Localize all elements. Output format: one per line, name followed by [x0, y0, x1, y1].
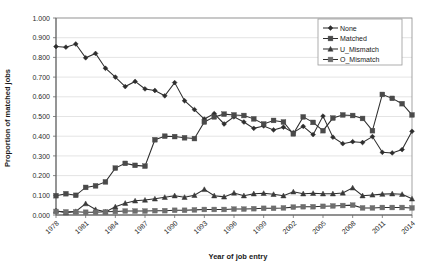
data-point-marker	[380, 92, 385, 97]
data-point-marker	[330, 204, 335, 209]
y-tick-label: 0.700	[32, 74, 50, 81]
data-point-marker	[232, 207, 237, 212]
data-point-marker	[113, 209, 118, 214]
x-tick-label: 2011	[371, 219, 387, 234]
data-point-marker	[410, 129, 415, 134]
data-point-marker	[360, 116, 365, 121]
y-tick-label: 0.100	[32, 192, 50, 199]
legend-item-label: None	[340, 25, 357, 32]
data-point-marker	[301, 114, 306, 119]
data-point-marker	[182, 135, 187, 140]
data-point-marker	[251, 116, 256, 121]
series-o-mismatch	[54, 203, 415, 215]
data-point-marker	[350, 113, 355, 118]
data-point-marker	[291, 189, 296, 194]
data-point-marker	[73, 193, 78, 198]
data-point-marker	[390, 151, 395, 156]
data-point-marker	[291, 205, 296, 210]
data-point-marker	[321, 114, 326, 119]
legend-item-label: U_Mismatch	[340, 46, 379, 54]
data-point-marker	[222, 112, 227, 117]
chart-container: 0.0000.1000.2000.3000.4000.5000.6000.700…	[0, 0, 427, 267]
data-point-marker	[212, 114, 217, 119]
x-tick-label: 2008	[341, 219, 357, 235]
data-point-marker	[301, 204, 306, 209]
data-point-marker	[83, 210, 88, 215]
data-point-marker	[192, 136, 197, 141]
data-point-marker	[232, 113, 237, 118]
data-point-marker	[83, 201, 88, 206]
data-point-marker	[340, 113, 345, 118]
data-point-marker	[54, 44, 59, 49]
data-point-marker	[370, 134, 375, 139]
data-point-marker	[350, 139, 355, 144]
data-point-marker	[103, 209, 108, 214]
data-point-marker	[222, 207, 227, 212]
data-point-marker	[143, 209, 148, 214]
data-point-marker	[380, 205, 385, 210]
data-point-marker	[162, 134, 167, 139]
data-point-marker	[340, 203, 345, 208]
data-point-marker	[152, 137, 157, 142]
y-tick-label: 0.400	[32, 133, 50, 140]
x-tick-label: 1999	[252, 219, 268, 235]
x-tick-label: 2005	[311, 219, 327, 235]
data-point-marker	[380, 150, 385, 155]
data-point-marker	[390, 96, 395, 101]
data-point-marker	[123, 209, 128, 214]
y-tick-label: 0.800	[32, 54, 50, 61]
y-tick-label: 0.300	[32, 153, 50, 160]
data-point-marker	[400, 101, 405, 106]
data-point-marker	[360, 140, 365, 145]
data-point-marker	[281, 120, 286, 125]
data-point-marker	[143, 164, 148, 169]
data-point-marker	[321, 128, 326, 133]
series-matched	[54, 92, 415, 198]
data-point-marker	[311, 120, 316, 125]
data-point-marker	[400, 147, 405, 152]
x-tick-label: 1996	[222, 219, 238, 235]
data-point-marker	[410, 113, 415, 118]
data-point-marker	[409, 196, 414, 201]
data-point-marker	[400, 205, 405, 210]
data-point-marker	[54, 209, 59, 214]
data-point-marker	[133, 163, 138, 168]
data-point-marker	[231, 190, 236, 195]
data-point-marker	[182, 208, 187, 213]
x-tick-label: 1993	[192, 219, 208, 235]
y-axis-tick-labels: 0.0000.1000.2000.3000.4000.5000.6000.700…	[32, 15, 50, 219]
y-tick-label: 0.900	[32, 34, 50, 41]
y-axis-title: Proportion of matched jobs	[3, 69, 12, 167]
data-point-marker	[261, 206, 266, 211]
x-tick-label: 1984	[103, 219, 119, 235]
data-point-marker	[63, 209, 68, 214]
data-point-marker	[370, 128, 375, 133]
data-point-marker	[390, 205, 395, 210]
data-point-marker	[113, 166, 118, 171]
data-point-marker	[202, 120, 207, 125]
data-point-marker	[321, 204, 326, 209]
data-point-marker	[73, 209, 78, 214]
legend-item-label: O_Mismatch	[340, 56, 379, 64]
data-point-marker	[261, 122, 266, 127]
x-tick-label: 1981	[74, 219, 90, 235]
legend-item-label: Matched	[340, 35, 367, 42]
y-tick-label: 0.200	[32, 172, 50, 179]
data-point-marker	[192, 207, 197, 212]
data-series-group	[53, 42, 414, 215]
y-tick-label: 0.500	[32, 113, 50, 120]
data-point-marker	[133, 209, 138, 214]
data-point-marker	[271, 127, 276, 132]
data-point-marker	[281, 125, 286, 130]
chart-legend: NoneMatchedU_MismatchO_Mismatch	[318, 19, 402, 65]
x-tick-label: 2014	[400, 219, 416, 235]
data-point-marker	[93, 183, 98, 188]
line-chart: 0.0000.1000.2000.3000.4000.5000.6000.700…	[0, 0, 427, 267]
x-tick-label: 2002	[281, 219, 297, 235]
data-point-marker	[54, 193, 59, 198]
legend-item-matched[interactable]: Matched	[323, 35, 367, 42]
x-axis-tick-labels: 1978198119841987199019931996199920022005…	[44, 219, 416, 235]
data-point-marker	[330, 116, 335, 121]
data-point-marker	[83, 185, 88, 190]
data-point-marker	[63, 191, 68, 196]
